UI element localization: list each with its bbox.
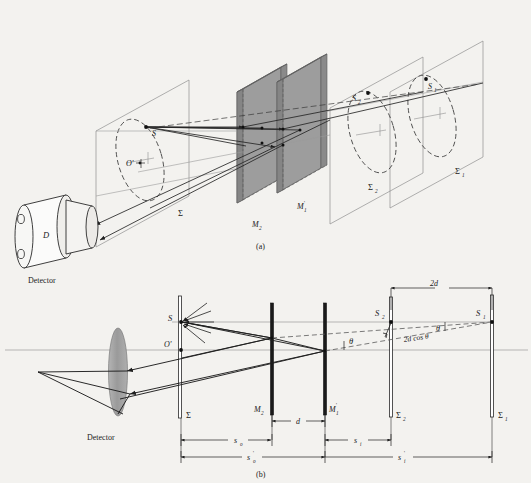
svg-text:2: 2 (259, 225, 262, 231)
screen-sigma-b (179, 296, 182, 418)
point-s-b (179, 320, 183, 324)
label-oprime-a: O' (126, 159, 134, 168)
svg-text:S: S (352, 94, 356, 103)
svg-text:Σ: Σ (455, 166, 460, 176)
svg-text:1: 1 (434, 87, 437, 93)
point-oprime-b (179, 348, 183, 352)
label-sigma-a: Σ (178, 208, 183, 218)
svg-text:O': O' (126, 159, 134, 168)
svg-text:Σ: Σ (498, 410, 503, 420)
caption-a: (a) (256, 242, 265, 251)
screen-sigma2-b (390, 297, 393, 417)
svg-text:2: 2 (403, 416, 406, 422)
svg-text:s: s (354, 436, 357, 445)
svg-text:2: 2 (358, 99, 361, 105)
svg-text:': ' (336, 402, 337, 408)
label-sigma-b: Σ (186, 410, 191, 420)
svg-text:2: 2 (382, 314, 385, 320)
svg-text:1: 1 (462, 172, 465, 178)
detector-body-label: D (42, 230, 50, 240)
point-s2-b (389, 320, 393, 324)
svg-text:': ' (304, 200, 305, 206)
point-s-a (144, 125, 148, 129)
svg-text:o: o (253, 458, 256, 464)
mirror-m2-b (271, 303, 274, 415)
label-theta-upper-b: θ (436, 324, 440, 333)
label-oprime-b: O' (164, 340, 172, 349)
point-s1-a (424, 77, 428, 81)
svg-text:1: 1 (483, 314, 486, 320)
svg-text:O': O' (164, 340, 172, 349)
label-theta-lower-b: θ (349, 336, 353, 346)
screen-sigma1-b (491, 295, 494, 417)
svg-text:1: 1 (304, 207, 307, 213)
svg-text:s: s (234, 436, 237, 445)
label-s-a: S (152, 129, 156, 138)
svg-text:': ' (404, 450, 405, 456)
svg-text:Σ: Σ (396, 410, 401, 420)
detector-caption-a: Detector (28, 276, 56, 285)
svg-text:s: s (247, 453, 250, 462)
point-s1-b (490, 320, 494, 324)
svg-text:1: 1 (336, 410, 339, 416)
svg-text:S: S (428, 82, 432, 91)
svg-text:1: 1 (505, 416, 508, 422)
svg-text:Σ: Σ (368, 182, 373, 192)
detector-caption-b: Detector (87, 433, 115, 442)
caption-b: (b) (256, 470, 266, 479)
svg-text:o: o (240, 441, 243, 447)
svg-text:s: s (398, 453, 401, 462)
svg-text:': ' (253, 450, 254, 456)
physics-diagram-svg: D Detector S O' S 2 S 1 M 2 M 1 ' Σ Σ 2 (0, 0, 531, 483)
label-2d-b: 2d (430, 279, 439, 288)
svg-text:2: 2 (261, 410, 264, 416)
point-s2-a (366, 91, 370, 95)
svg-text:2: 2 (375, 188, 378, 194)
figure-container: D Detector S O' S 2 S 1 M 2 M 1 ' Σ Σ 2 (0, 0, 531, 483)
mirror-m1prime-b (324, 303, 327, 415)
